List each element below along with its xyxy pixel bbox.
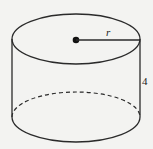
cylinder-figure: r 4 bbox=[0, 0, 153, 149]
bottom-back-arc-dashed bbox=[12, 92, 140, 117]
radius-label: r bbox=[106, 26, 111, 38]
height-label: 4 bbox=[142, 75, 148, 87]
bottom-front-arc bbox=[12, 117, 140, 142]
cylinder-diagram: r 4 bbox=[0, 0, 153, 149]
